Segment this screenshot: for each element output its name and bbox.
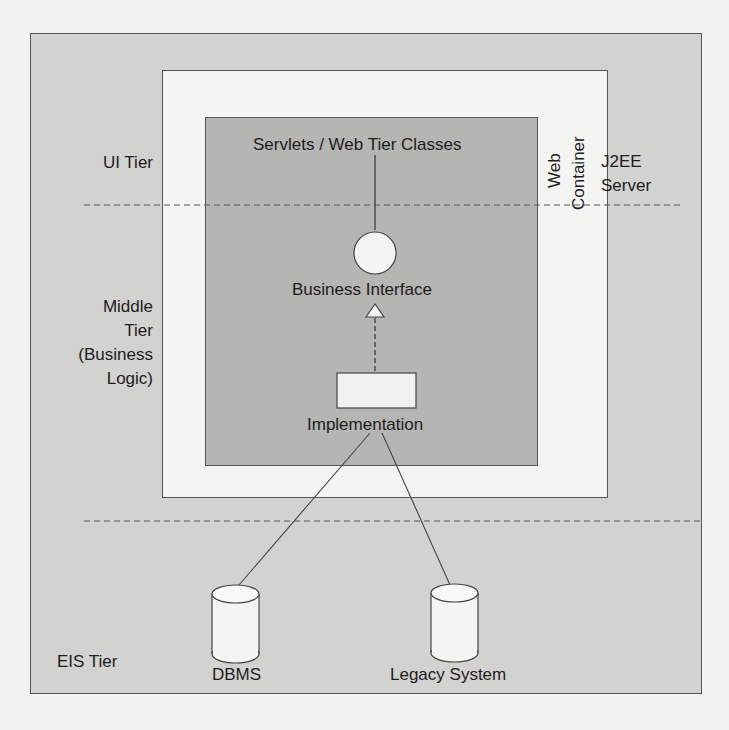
ui-tier-label: UI Tier [33, 152, 153, 173]
realization-arrow-icon [366, 304, 384, 317]
servlets-label: Servlets / Web Tier Classes [253, 134, 461, 155]
middle-tier-line2: Tier [33, 319, 153, 343]
middle-tier-line1: Middle [33, 295, 153, 319]
implementation-label: Implementation [307, 414, 423, 435]
middle-tier-line3: (Business [33, 343, 153, 367]
middle-tier-line4: Logic) [33, 367, 153, 391]
business-interface-icon [354, 232, 396, 274]
legacy-system-database-icon [431, 584, 478, 662]
j2ee-server-label: J2EE Server [601, 150, 651, 198]
dbms-label: DBMS [212, 664, 261, 685]
eis-tier-label: EIS Tier [57, 651, 117, 672]
web-label: Web [544, 153, 565, 188]
implementation-class-icon [337, 373, 416, 408]
dbms-database-icon [212, 585, 259, 663]
middle-tier-label: Middle Tier (Business Logic) [33, 295, 153, 391]
container-label: Container [568, 136, 589, 210]
j2ee-server-label-line2: Server [601, 174, 651, 198]
j2ee-server-label-line1: J2EE [601, 150, 651, 174]
legacy-system-label: Legacy System [390, 664, 506, 685]
business-interface-label: Business Interface [292, 279, 432, 300]
